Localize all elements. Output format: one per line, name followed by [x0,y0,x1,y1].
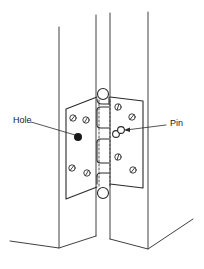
hole-icon [74,133,82,141]
screw-icon [69,165,75,171]
screw-icon [115,154,121,160]
hinge-diagram: Hole Pin [0,0,204,269]
pin-arrowhead [124,128,130,133]
hinge-leaf-left [66,97,97,199]
screw-icon [115,104,121,110]
screw-icon [70,115,76,121]
door-frame-left [10,15,96,248]
hinge-illustration [0,0,204,269]
screw-icon [83,117,89,123]
screw-icon [129,114,135,120]
pin-icon [113,127,125,138]
leader-lines [31,122,166,135]
screws-right [115,104,136,173]
pin-label: Pin [170,119,183,128]
screw-icon [130,167,136,173]
screw-icon [84,170,90,176]
hinge-leaf-right [110,97,143,188]
screws-left [69,115,90,176]
hole-label: Hole [13,116,32,125]
